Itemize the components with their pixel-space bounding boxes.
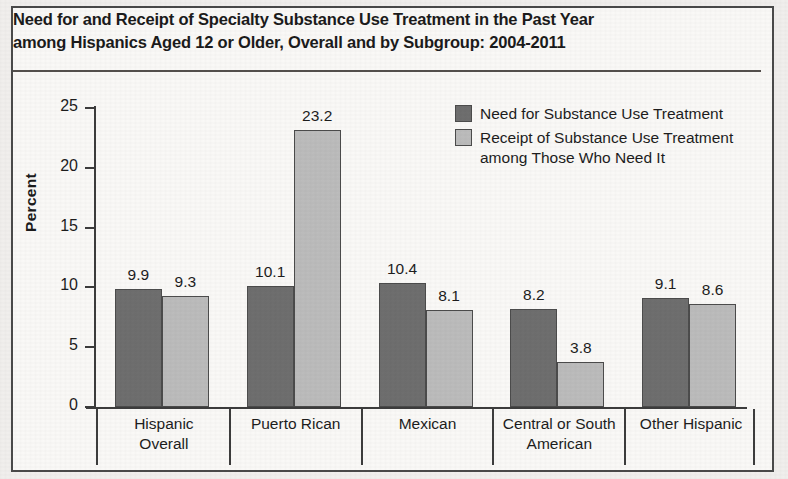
bar-value-label: 8.6 [681,281,744,299]
category-label-line: Mexican [362,414,494,434]
y-axis-tick: 5 [85,346,95,348]
category-axis: HispanicOverallPuerto RicanMexicanCentra… [96,409,755,465]
bar [162,296,209,407]
y-axis-tick-label: 10 [60,276,78,294]
bar [426,310,473,407]
bar [247,286,294,407]
bar-value-label: 10.1 [239,263,302,281]
legend-item[interactable]: Need for Substance Use Treatment [455,104,755,123]
legend-label-line: Receipt of Substance Use Treatment [480,128,733,147]
legend-item[interactable]: Receipt of Substance Use Treatmentamong … [455,128,755,167]
category-label-line: Hispanic [98,414,230,434]
y-axis-tick-label: 15 [60,217,78,235]
legend-label-line: among Those Who Need It [480,148,733,167]
y-axis-tick: 0 [85,406,95,408]
y-axis-tick-label: 5 [69,336,78,354]
y-axis-tick: 10 [85,286,95,288]
category-label: Other Hispanic [625,414,757,434]
title-divider [13,70,761,72]
category-label-line: Puerto Rican [230,414,362,434]
legend-label-line: Need for Substance Use Treatment [480,104,723,123]
bar [115,289,162,407]
y-axis-title: Percent [22,173,40,232]
chart-title-line-2: among Hispanics Aged 12 or Older, Overal… [13,31,748,54]
y-axis-tick: 15 [85,227,95,229]
bar [294,130,341,407]
chart-title-line-1: Need for and Receipt of Specialty Substa… [13,8,748,31]
y-axis-tick-label: 25 [60,97,78,115]
category-label: Mexican [362,414,494,434]
category-label-line: American [493,434,625,454]
chart-figure: Need for and Receipt of Specialty Substa… [0,0,788,479]
bar-value-label: 23.2 [286,107,349,125]
y-axis-tick-label: 20 [60,157,78,175]
category-label: Puerto Rican [230,414,362,434]
y-axis-tick: 20 [85,167,95,169]
category-label-line: Other Hispanic [625,414,757,434]
chart-legend: Need for Substance Use TreatmentReceipt … [455,104,755,172]
bar-value-label: 3.8 [549,339,612,357]
chart-title: Need for and Receipt of Specialty Substa… [13,8,748,54]
bar [689,304,736,407]
category-label: HispanicOverall [98,414,230,455]
category-label: Central or SouthAmerican [493,414,625,455]
bar-value-label: 9.3 [154,273,217,291]
y-axis-tick-label: 0 [69,396,78,414]
legend-swatch-need [455,105,472,122]
legend-label: Receipt of Substance Use Treatmentamong … [480,128,733,167]
category-label-line: Overall [98,434,230,454]
bar-value-label: 8.2 [502,286,565,304]
bar [557,362,604,407]
legend-label: Need for Substance Use Treatment [480,104,723,123]
legend-swatch-receipt [455,129,472,146]
bar-value-label: 8.1 [418,287,481,305]
category-label-line: Central or South [493,414,625,434]
bar [642,298,689,407]
bar [510,309,557,407]
bar-value-label: 10.4 [371,260,434,278]
y-axis-line [94,106,96,409]
y-axis-tick: 25 [85,107,95,109]
